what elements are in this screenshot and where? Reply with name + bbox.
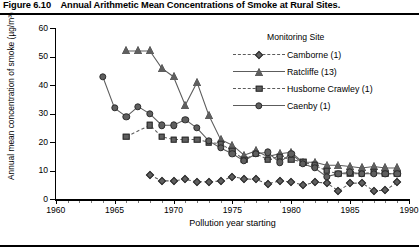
legend-label: Caenby (1) xyxy=(287,101,331,111)
legend-item[interactable]: Ratcliffe (13) xyxy=(231,63,417,80)
data-point xyxy=(181,101,189,109)
legend-sample xyxy=(231,63,287,80)
legend-title: Monitoring Site xyxy=(231,32,417,42)
legend-label: Ratcliffe (13) xyxy=(287,67,337,77)
legend-item[interactable]: Caenby (1) xyxy=(231,97,417,114)
legend-marker-square xyxy=(256,85,263,92)
data-point xyxy=(123,133,130,140)
legend-label: Camborne (1) xyxy=(287,50,341,60)
series-line-2 xyxy=(126,125,397,174)
legend-sample xyxy=(231,97,287,114)
data-point xyxy=(193,78,201,86)
data-point xyxy=(194,136,201,143)
legend-sample xyxy=(231,46,287,63)
title-rule-bottom xyxy=(0,245,419,247)
legend: Monitoring Site Camborne (1)Ratcliffe (1… xyxy=(231,32,417,114)
legend-item[interactable]: Camborne (1) xyxy=(231,46,417,63)
data-point xyxy=(147,122,154,129)
data-point xyxy=(182,136,189,143)
figure-title: Figure 6.10 Annual Arithmetic Mean Conce… xyxy=(0,0,419,12)
figure-number: Figure 6.10 xyxy=(0,0,51,12)
legend-marker-triangle xyxy=(255,68,263,76)
figure-caption: Annual Arithmetic Mean Concentrations of… xyxy=(53,0,340,12)
data-point xyxy=(134,46,142,54)
legend-marker-circle xyxy=(255,102,262,109)
data-point xyxy=(264,156,271,163)
data-point xyxy=(170,136,177,143)
legend-marker-diamond xyxy=(255,50,263,58)
figure-container: Figure 6.10 Annual Arithmetic Mean Conce… xyxy=(0,0,419,248)
data-point xyxy=(146,46,154,54)
data-point xyxy=(288,156,295,163)
data-point xyxy=(122,46,130,54)
data-point xyxy=(205,111,213,119)
legend-label: Husborne Crawley (1) xyxy=(287,84,373,94)
data-point xyxy=(158,64,166,72)
legend-item[interactable]: Husborne Crawley (1) xyxy=(231,80,417,97)
legend-rows: Camborne (1)Ratcliffe (13)Husborne Crawl… xyxy=(231,46,417,114)
plot-area: 0102030405060 19601965197019751980198519… xyxy=(0,15,419,245)
data-point xyxy=(158,133,165,140)
data-point xyxy=(170,72,178,80)
legend-sample xyxy=(231,80,287,97)
data-point xyxy=(334,161,342,169)
